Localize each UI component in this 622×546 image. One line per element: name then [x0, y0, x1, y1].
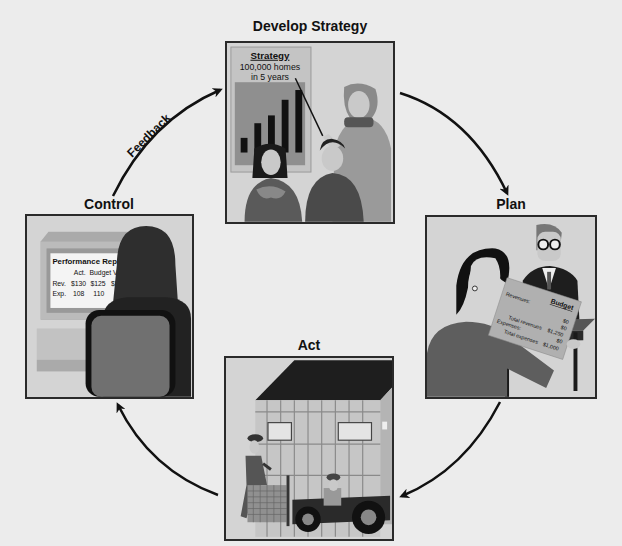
svg-text:Performance Report: Performance Report: [52, 257, 127, 266]
construction-illustration: [226, 358, 392, 539]
svg-text:Budget: Budget: [89, 269, 111, 277]
plan-to-act-arrow: [402, 402, 500, 496]
svg-text:108: 108: [73, 290, 85, 297]
plan-panel: Budget Revenues: $0 $0 Total revenues $1…: [425, 215, 597, 399]
svg-text:Rev.: Rev.: [52, 280, 66, 287]
svg-text:110: 110: [93, 290, 104, 297]
feedback-arrow: [113, 90, 220, 196]
budget-planning-illustration: Budget Revenues: $0 $0 Total revenues $1…: [427, 217, 595, 397]
performance-review-illustration: Performance Report Act. Budget Var. Rev.…: [27, 216, 192, 397]
strategy-to-plan-arrow: [400, 93, 507, 193]
act-to-control-arrow: [118, 405, 218, 495]
act-panel: [224, 356, 394, 541]
svg-text:$125: $125: [90, 280, 105, 287]
stage-label-control: Control: [84, 196, 134, 212]
stage-label-develop-strategy: Develop Strategy: [253, 18, 367, 34]
management-cycle-diagram: Feedback Develop Strategy Plan Act Contr…: [0, 0, 622, 546]
stage-label-plan: Plan: [496, 196, 526, 212]
svg-text:Exp.: Exp.: [52, 290, 66, 298]
develop-strategy-panel: Strategy 100,000 homes in 5 years: [225, 41, 395, 224]
svg-text:Act.: Act.: [74, 269, 86, 276]
control-panel: Performance Report Act. Budget Var. Rev.…: [25, 214, 194, 399]
board-line1: 100,000 homes: [240, 62, 301, 72]
svg-text:$130: $130: [71, 280, 86, 287]
strategy-meeting-illustration: Strategy 100,000 homes in 5 years: [227, 43, 393, 222]
feedback-label: Feedback: [124, 111, 173, 160]
stage-label-act: Act: [298, 337, 321, 353]
board-title: Strategy: [250, 50, 290, 61]
board-line2: in 5 years: [251, 72, 290, 82]
